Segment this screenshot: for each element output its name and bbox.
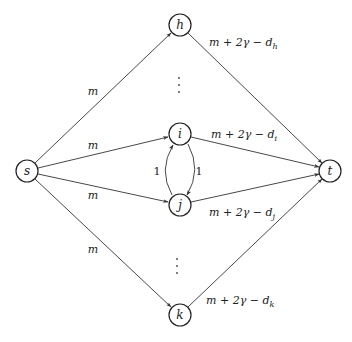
edge-j-i-arc (165, 145, 173, 195)
label-s-k: m (88, 243, 98, 256)
edge-s-j (38, 174, 168, 202)
label-s-i: m (88, 139, 98, 152)
label-j-i-arc: 1 (154, 165, 161, 178)
node-h: h (169, 14, 191, 36)
node-t: t (319, 160, 341, 182)
label-h-t: m + 2γ − dh (209, 36, 278, 51)
node-s-label: s (24, 164, 30, 178)
node-k-label: k (176, 308, 183, 322)
label-i-j-arc: 1 (196, 165, 203, 178)
label-s-h: m (88, 85, 98, 98)
label-s-j: m (88, 189, 98, 202)
edge-i-j-arc (187, 144, 195, 195)
node-i: i (169, 123, 191, 145)
edge-j-t (191, 174, 319, 202)
node-s: s (16, 160, 38, 182)
label-j-t: m + 2γ − dj (209, 206, 275, 221)
node-i-label: i (178, 127, 182, 141)
node-t-label: t (328, 164, 333, 178)
node-j: j (169, 194, 191, 216)
edge-s-h (35, 33, 171, 163)
node-k: k (169, 304, 191, 326)
ellipsis-upper (178, 77, 180, 93)
label-k-t: m + 2γ − dk (206, 294, 274, 309)
ellipsis-lower (176, 258, 178, 274)
flow-network-diagram: s h i j k t m m m m m + 2γ − dh m + 2γ −… (0, 0, 352, 342)
node-h-label: h (176, 18, 184, 32)
edge-h-t (188, 33, 322, 163)
diagram-svg: s h i j k t m m m m m + 2γ − dh m + 2γ −… (0, 0, 352, 342)
label-i-t: m + 2γ − di (211, 128, 277, 143)
